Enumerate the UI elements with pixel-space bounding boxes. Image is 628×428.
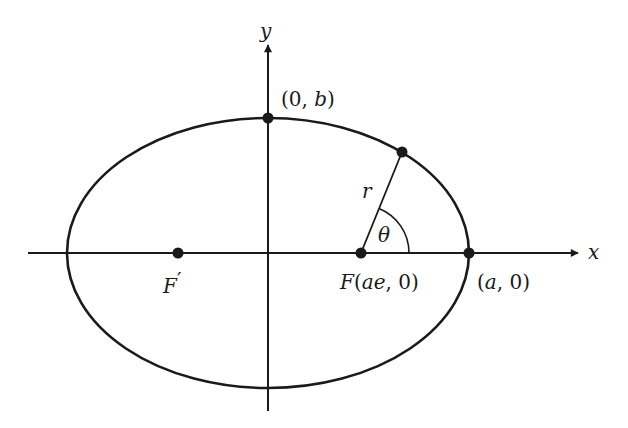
top-vertex-label: (0, b) xyxy=(281,87,335,111)
radius-label: r xyxy=(362,179,373,203)
ellipse-diagram: y x (0, b) (a, 0) F(ae, 0) F′ r θ xyxy=(0,0,628,428)
x-axis-label: x xyxy=(588,240,599,264)
top-vertex-dot xyxy=(263,113,274,124)
angle-label: θ xyxy=(378,223,390,247)
focus-prime-label: F′ xyxy=(162,268,182,298)
y-axis-label: y xyxy=(259,19,272,43)
focus-label: F(ae, 0) xyxy=(339,270,419,294)
focus-prime-dot xyxy=(173,248,184,259)
orbit-point-dot xyxy=(397,147,408,158)
focus-dot xyxy=(356,248,367,259)
right-vertex-label: (a, 0) xyxy=(477,270,530,294)
right-vertex-dot xyxy=(464,248,475,259)
